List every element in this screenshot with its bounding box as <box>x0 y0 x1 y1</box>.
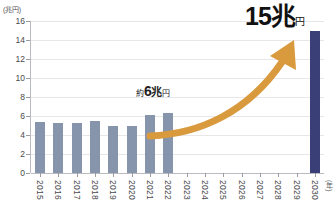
bar-2020 <box>127 126 137 174</box>
x-tick-mark <box>223 173 224 177</box>
x-tick-label-2019: 2019 <box>109 180 118 200</box>
callout-prefix: 約 <box>136 89 144 98</box>
forecast-unit-big: 兆 <box>271 2 295 30</box>
callout-unit-small: 円 <box>162 89 170 98</box>
chart-container: (兆円) 02468101214162015201620172018201920… <box>0 0 334 216</box>
bar-2017 <box>72 123 82 173</box>
x-tick-label-2022: 2022 <box>164 180 173 200</box>
y-tick-mark <box>26 97 30 98</box>
forecast-value-callout: 15兆円 <box>245 4 305 29</box>
x-tick-label-2016: 2016 <box>54 180 63 200</box>
bar-2015 <box>35 122 45 173</box>
x-tick-mark <box>150 173 151 177</box>
x-tick-mark <box>315 173 316 177</box>
gridline <box>31 173 324 174</box>
x-tick-label-2017: 2017 <box>72 180 81 200</box>
y-tick-label: 16 <box>16 17 25 26</box>
x-tick-label-2024: 2024 <box>200 180 209 200</box>
forecast-unit-small: 円 <box>295 16 305 27</box>
x-tick-mark <box>187 173 188 177</box>
gridline <box>31 116 324 117</box>
y-tick-label: 4 <box>20 131 25 140</box>
y-tick-mark <box>26 40 30 41</box>
y-tick-mark <box>26 59 30 60</box>
x-tick-mark <box>205 173 206 177</box>
y-tick-label: 12 <box>16 55 25 64</box>
gridline <box>31 78 324 79</box>
callout-unit-big: 兆 <box>151 86 162 98</box>
x-tick-mark <box>40 173 41 177</box>
x-tick-label-2023: 2023 <box>182 180 191 200</box>
x-tick-label-2028: 2028 <box>274 180 283 200</box>
x-tick-label-2021: 2021 <box>146 180 155 200</box>
y-tick-label: 8 <box>20 93 25 102</box>
y-tick-mark <box>26 154 30 155</box>
x-tick-label-2015: 2015 <box>36 180 45 200</box>
x-tick-mark <box>132 173 133 177</box>
y-tick-mark <box>26 21 30 22</box>
y-tick-label: 14 <box>16 36 25 45</box>
x-tick-mark <box>77 173 78 177</box>
x-tick-mark <box>260 173 261 177</box>
x-tick-mark <box>242 173 243 177</box>
y-tick-label: 2 <box>20 150 25 159</box>
x-tick-label-2026: 2026 <box>237 180 246 200</box>
y-tick-mark <box>26 173 30 174</box>
y-tick-label: 6 <box>20 112 25 121</box>
x-tick-label-2029: 2029 <box>292 180 301 200</box>
x-tick-mark <box>168 173 169 177</box>
y-tick-mark <box>26 116 30 117</box>
y-tick-label: 10 <box>16 74 25 83</box>
bar-2019 <box>108 126 118 174</box>
y-tick-label: 0 <box>20 169 25 178</box>
x-tick-label-2018: 2018 <box>91 180 100 200</box>
x-tick-mark <box>297 173 298 177</box>
x-tick-label-2030: 2030 <box>310 180 319 200</box>
x-axis-unit-label: (年) <box>324 180 334 192</box>
plot-area: 0246810121416201520162017201820192020202… <box>31 21 324 173</box>
x-tick-mark <box>95 173 96 177</box>
x-tick-label-2025: 2025 <box>219 180 228 200</box>
x-tick-mark <box>278 173 279 177</box>
y-axis-unit-label: (兆円) <box>3 4 21 14</box>
bar-2016 <box>53 123 63 173</box>
forecast-number: 15 <box>245 2 271 30</box>
current-value-callout: 約6兆円 <box>136 84 170 98</box>
gridline <box>31 40 324 41</box>
x-tick-mark <box>113 173 114 177</box>
bar-2022 <box>163 113 173 173</box>
gridline <box>31 59 324 60</box>
x-tick-label-2027: 2027 <box>255 180 264 200</box>
y-tick-mark <box>26 78 30 79</box>
x-tick-label-2020: 2020 <box>127 180 136 200</box>
bar-2030 <box>310 31 320 174</box>
x-tick-mark <box>58 173 59 177</box>
gridline <box>31 97 324 98</box>
bar-2018 <box>90 121 100 173</box>
bar-2021 <box>145 115 155 173</box>
y-tick-mark <box>26 135 30 136</box>
